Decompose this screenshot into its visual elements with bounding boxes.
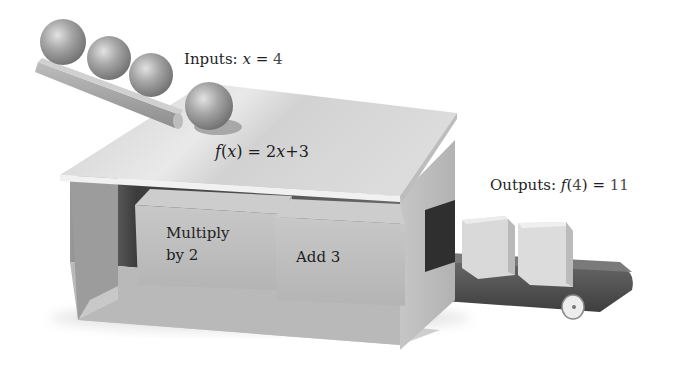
outputs-value: 11 <box>610 176 629 194</box>
multiply-step-line1: Multiply <box>166 222 246 244</box>
function-rhs-variable: x <box>276 142 285 161</box>
function-rhs-tail: +3 <box>285 142 309 161</box>
outputs-arg: 4 <box>572 176 582 194</box>
outputs-paren-close: ) <box>582 176 588 194</box>
outputs-equals: = <box>592 176 605 194</box>
input-ball <box>87 36 131 80</box>
outputs-label: Outputs: f(4) = 11 <box>490 178 629 193</box>
inputs-label: Inputs: x = 4 <box>184 52 283 67</box>
output-cube <box>462 216 515 279</box>
function-rhs: = 2 <box>248 142 277 161</box>
input-ball <box>40 19 86 65</box>
function-variable: x <box>227 142 236 161</box>
function-formula: f(x) = 2x+3 <box>215 144 309 160</box>
multiply-step-label: Multiply by 2 <box>166 222 246 266</box>
input-ball <box>185 82 233 130</box>
inputs-value: 4 <box>273 50 283 68</box>
add-step-line1: Add 3 <box>296 246 340 268</box>
multiply-step-line2: by 2 <box>166 244 246 266</box>
function-paren-close: ) <box>236 142 242 161</box>
output-cube <box>518 222 573 287</box>
input-ball <box>129 53 173 97</box>
add-step-label: Add 3 <box>296 246 340 268</box>
inputs-variable: x <box>242 50 250 68</box>
inputs-equals: = <box>256 50 269 68</box>
outputs-prefix: Outputs: <box>490 176 556 194</box>
inputs-prefix: Inputs: <box>184 50 238 68</box>
